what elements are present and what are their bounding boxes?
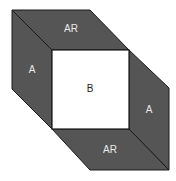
bottom-label: AR [103, 144, 117, 155]
left-label: A [29, 64, 36, 75]
right-label: A [146, 104, 153, 115]
top-label: AR [64, 23, 78, 34]
hexagonal-frame-diagram: AR A B A AR [0, 0, 176, 181]
center-label: B [87, 83, 94, 94]
